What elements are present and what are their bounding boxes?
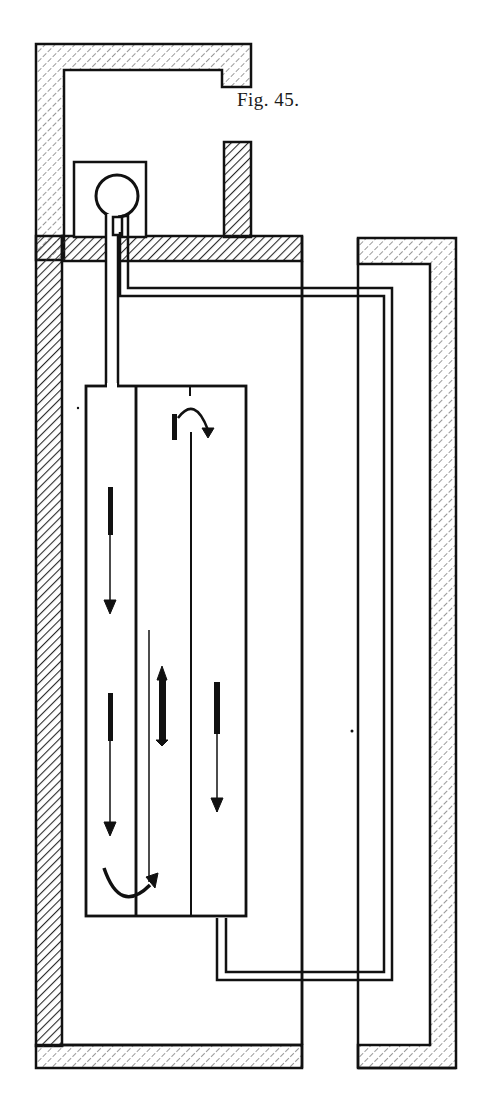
heating-system-diagram: [0, 0, 484, 1093]
ceiling-slab: [62, 236, 302, 261]
right-enclosure-wall: [358, 238, 456, 1068]
boiler-sphere: [96, 175, 138, 217]
figure-45: Fig. 45.: [0, 0, 484, 1093]
short-chimney-stack: [224, 142, 251, 237]
flow-pipe: [106, 214, 118, 390]
